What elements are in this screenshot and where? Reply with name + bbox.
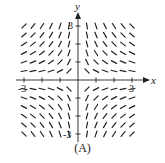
slope-segment bbox=[22, 33, 27, 37]
slope-segment bbox=[21, 106, 26, 109]
slope-segment bbox=[102, 70, 108, 72]
slope-segment bbox=[68, 32, 69, 38]
slope-segment bbox=[86, 32, 87, 38]
slope-segment bbox=[120, 61, 126, 63]
slope-segment bbox=[22, 114, 27, 117]
slope-segment bbox=[40, 51, 45, 55]
slope-segment bbox=[68, 113, 69, 119]
x-axis-arrow-icon bbox=[143, 77, 150, 83]
slope-segment bbox=[49, 42, 53, 47]
slope-segment bbox=[121, 114, 126, 118]
slope-segment bbox=[30, 70, 36, 71]
slope-segment bbox=[86, 59, 89, 64]
slope-segment bbox=[22, 42, 27, 45]
slope-segment bbox=[120, 97, 126, 99]
slope-segment bbox=[40, 33, 44, 38]
slope-segment bbox=[57, 70, 62, 73]
slope-segment bbox=[95, 113, 98, 118]
slope-segment bbox=[59, 41, 62, 46]
slope-segment bbox=[49, 105, 53, 109]
tick-label-y-pos: 3 bbox=[68, 20, 73, 31]
slope-segment bbox=[31, 33, 35, 37]
slope-segment bbox=[103, 114, 107, 119]
slope-segment bbox=[48, 70, 54, 72]
slope-segment bbox=[93, 88, 98, 91]
slope-segment bbox=[104, 23, 107, 28]
slope-segment bbox=[120, 105, 125, 108]
slope-segment bbox=[112, 51, 117, 55]
slope-segment bbox=[40, 24, 43, 29]
slope-segment bbox=[30, 51, 35, 54]
slope-segment bbox=[129, 97, 135, 99]
slope-segment bbox=[103, 60, 108, 63]
slope-segment bbox=[112, 33, 116, 38]
slope-segment bbox=[121, 42, 126, 46]
slope-segment bbox=[129, 61, 135, 63]
slope-segment bbox=[31, 123, 35, 127]
slope-segment bbox=[103, 32, 106, 37]
slope-segment bbox=[86, 122, 87, 128]
tick-label-y-neg: -3 bbox=[63, 129, 71, 140]
slope-segment bbox=[31, 114, 36, 118]
slope-segment bbox=[49, 114, 53, 119]
slope-segment bbox=[57, 88, 62, 91]
slope-field-plot: x y 3 -3 -3 3 bbox=[0, 0, 165, 163]
slope-segment bbox=[112, 24, 115, 29]
slope-segment bbox=[68, 59, 71, 64]
slope-segment bbox=[86, 104, 88, 110]
slope-segment bbox=[67, 69, 71, 73]
slope-segment bbox=[58, 105, 61, 110]
slope-segment bbox=[68, 122, 69, 128]
y-axis-arrow-icon bbox=[75, 12, 81, 19]
slope-segment bbox=[30, 61, 36, 63]
slope-segment bbox=[49, 60, 54, 63]
slope-segment bbox=[22, 123, 27, 127]
slope-segment bbox=[59, 32, 61, 38]
slope-field-figure: x y 3 -3 -3 3 (A) bbox=[0, 0, 165, 163]
slope-segment bbox=[94, 105, 97, 110]
slope-segment bbox=[112, 123, 116, 128]
x-axis-label: x bbox=[150, 74, 156, 86]
tick-label-x-neg: -3 bbox=[18, 83, 26, 94]
slope-segment bbox=[95, 41, 98, 46]
slope-segment bbox=[112, 42, 116, 46]
slope-segment bbox=[68, 95, 71, 100]
slope-segment bbox=[130, 42, 135, 45]
slope-segment bbox=[130, 33, 135, 37]
slope-segment bbox=[21, 97, 27, 99]
slope-segment bbox=[120, 70, 126, 71]
slope-segment bbox=[129, 106, 134, 109]
slope-segment bbox=[59, 131, 61, 137]
slope-segment bbox=[87, 131, 88, 137]
slope-segment bbox=[130, 123, 135, 127]
slope-segment bbox=[87, 23, 88, 29]
slope-segment bbox=[111, 97, 116, 100]
slope-segment bbox=[30, 97, 36, 99]
slope-segment bbox=[50, 131, 53, 136]
slope-segment bbox=[31, 42, 36, 46]
slope-segment bbox=[130, 114, 135, 117]
tick-label-x-pos: 3 bbox=[129, 83, 134, 94]
slope-segment bbox=[30, 105, 35, 108]
slope-segment bbox=[129, 52, 134, 55]
axes bbox=[16, 12, 150, 142]
slope-segment bbox=[121, 132, 125, 137]
y-axis-label: y bbox=[74, 0, 80, 12]
slope-segment bbox=[50, 23, 53, 28]
slope-segment bbox=[120, 88, 126, 89]
slope-segment bbox=[95, 23, 97, 29]
slope-segment bbox=[68, 41, 69, 47]
slope-segment bbox=[21, 52, 26, 55]
slope-segment bbox=[59, 122, 61, 128]
slope-segment bbox=[111, 61, 116, 64]
slope-segment bbox=[22, 24, 26, 28]
slope-segment bbox=[111, 88, 117, 89]
slope-segment bbox=[103, 51, 107, 55]
slope-segment bbox=[120, 51, 125, 54]
slope-segment bbox=[95, 131, 97, 137]
slope-segment bbox=[121, 33, 125, 37]
slope-segment bbox=[121, 24, 125, 29]
slope-segment bbox=[86, 95, 89, 100]
slope-segment bbox=[39, 70, 45, 71]
slope-segment bbox=[40, 42, 44, 46]
